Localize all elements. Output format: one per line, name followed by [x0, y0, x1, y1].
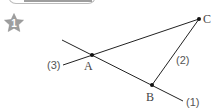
label-point-a: A: [84, 60, 93, 72]
point-a: [90, 53, 94, 57]
label-point-b: B: [146, 91, 154, 103]
label-line-2: (2): [176, 55, 189, 66]
label-line-3: (3): [47, 60, 60, 71]
line-2: [152, 19, 199, 85]
point-b: [150, 83, 154, 87]
point-c: [197, 17, 201, 21]
label-line-1: (1): [186, 97, 199, 108]
label-point-c: C: [203, 13, 211, 25]
line-1: [62, 40, 183, 101]
